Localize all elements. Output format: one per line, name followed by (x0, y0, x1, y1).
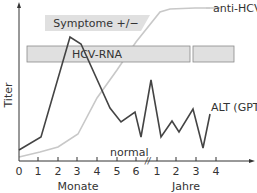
tick-label-month-0: 0 (16, 165, 23, 178)
tick-label-month-5: 5 (114, 165, 121, 178)
y-axis-arrow-icon (17, 2, 21, 8)
tick-label-month-1: 1 (35, 165, 42, 178)
tick-label-month-2: 2 (55, 165, 62, 178)
tick-label-month-4: 4 (94, 165, 101, 178)
hcv-rna-label: HCV-RNA (72, 48, 123, 61)
y-axis-title: Titer (2, 82, 15, 109)
tick-label-month-6: 6 (133, 165, 140, 178)
x-axis-arrow-icon (249, 159, 255, 163)
tick-label-year-2: 2 (173, 165, 180, 178)
tick-label-year-1: 1 (154, 165, 161, 178)
alt-label: ALT (GPT) (211, 101, 257, 114)
x-axis-title-months: Monate (57, 180, 98, 193)
hcv-chart: Symptome +/− anti-HCV HCV-RNA ALT (GPT) … (0, 0, 257, 193)
tick-label-month-3: 3 (74, 165, 81, 178)
tick-label-year-4: 4 (213, 165, 220, 178)
tick-label-year-3: 3 (193, 165, 200, 178)
hcv-rna-bar-continuation (193, 46, 234, 62)
x-axis-title-years: Jahre (171, 180, 200, 193)
symptome-label: Symptome +/− (53, 17, 138, 30)
anti-hcv-label: anti-HCV (213, 2, 257, 15)
normal-label: normal (110, 146, 149, 159)
